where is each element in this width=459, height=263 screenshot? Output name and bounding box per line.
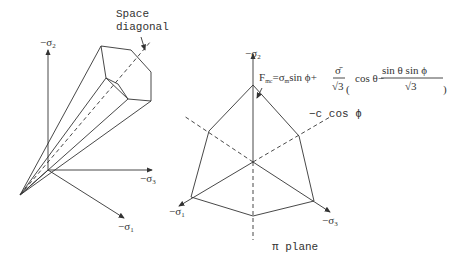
axis-sigma1-right [179,162,253,206]
svg-text:(: ( [346,83,350,96]
axis-sigma1-label-left: −σ1 [118,220,134,234]
svg-text:√3: √3 [405,80,417,92]
space-diagonal-label-2: diagonal [116,21,169,33]
axis-sigma3-label-right: −σ3 [322,214,338,228]
svg-text:cos θ−: cos θ− [355,72,384,84]
pi-axis-dashed-right [253,117,330,162]
space-diagonal-line [20,41,151,195]
pi-axis-dashed-left [184,116,253,162]
formula-pointer [257,88,262,98]
space-diagonal-label-1: Space [116,8,149,20]
mohr-coulomb-formula: Fmc=σmsin ϕ+ σ̄ √3 ( cos θ− sin θ sin ϕ … [259,64,447,96]
pi-plane-label: π plane [272,241,318,253]
svg-text:√3: √3 [332,80,344,92]
axis-sigma3-right [253,162,330,212]
axis-sigma1-label-right: −σ1 [169,205,185,219]
diagram-canvas: Space diagonal −σ2 −σ3 −σ1 −σ2 −σ1 −σ3 F… [0,0,459,263]
svg-text:Fmc=σmsin ϕ+: Fmc=σmsin ϕ+ [259,71,317,84]
pi-plane-figure: −σ2 −σ1 −σ3 Fmc=σmsin ϕ+ σ̄ √3 ( cos θ− … [169,47,447,253]
svg-text:): ) [443,83,447,96]
mohr-coulomb-hexagon [191,85,314,216]
axis-sigma2-label-left: −σ2 [40,36,56,50]
axis-sigma2-label-right: −σ2 [245,47,261,61]
svg-text:σ̄: σ̄ [335,64,343,76]
axis-sigma1-left [48,170,124,218]
axis-sigma3-label-left: −σ3 [140,172,156,186]
space-diagonal-pointer [141,37,145,50]
yield-surface-pyramid [20,46,151,195]
svg-text:sin θ sin ϕ: sin θ sin ϕ [382,64,427,76]
offset-label: −c cos ϕ [309,108,362,120]
principal-stress-space-figure: Space diagonal −σ2 −σ3 −σ1 [20,8,169,234]
